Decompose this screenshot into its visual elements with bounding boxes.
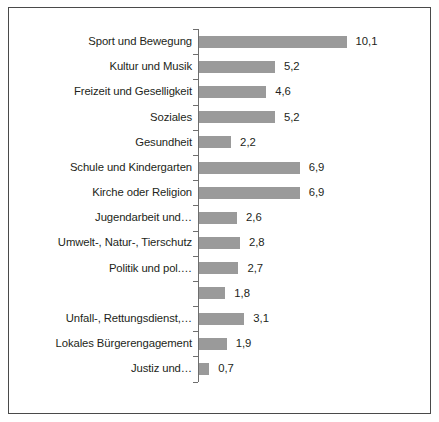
bar-row: Freizeit und Geselligkeit4,6: [9, 79, 430, 104]
bar-value-label: 6,9: [309, 162, 325, 173]
bar-value-label: 2,2: [240, 137, 256, 148]
bar-value-label: 2,8: [249, 237, 265, 248]
bar: [199, 187, 300, 199]
bar-and-value: 2,6: [199, 212, 262, 224]
bar-value-label: 0,7: [218, 363, 234, 374]
bar: [199, 136, 231, 148]
bar-value-label: 3,1: [253, 313, 269, 324]
bar-value-label: 2,7: [247, 263, 263, 274]
bar-and-value: 2,2: [199, 136, 256, 148]
bar-value-label: 4,6: [275, 86, 291, 97]
bar-row: Gesundheit2,2: [9, 130, 430, 155]
category-label: Kultur und Musik: [12, 61, 192, 72]
axis-tick: [193, 130, 198, 131]
bar: [199, 61, 275, 73]
axis-tick: [193, 54, 198, 55]
category-label: Schule und Kindergarten: [12, 162, 192, 173]
bar-value-label: 1,8: [234, 288, 250, 299]
axis-tick: [193, 256, 198, 257]
bar: [199, 287, 225, 299]
bar: [199, 313, 244, 325]
chart-frame-border: Sport und Bewegung10,1Kultur und Musik5,…: [8, 7, 431, 414]
category-label: Justiz und…: [12, 363, 192, 374]
bar-value-label: 10,1: [356, 36, 378, 47]
bar: [199, 212, 237, 224]
axis-tick: [193, 331, 198, 332]
bar: [199, 237, 240, 249]
bar-row: Sport und Bewegung10,1: [9, 29, 430, 54]
bar-row: Soziales5,2: [9, 105, 430, 130]
category-label: Politik und pol.…: [12, 263, 192, 274]
bar-row: Jugendarbeit und…2,6: [9, 205, 430, 230]
bar-and-value: 2,8: [199, 237, 265, 249]
axis-tick: [193, 155, 198, 156]
bar: [199, 338, 227, 350]
axis-tick: [193, 356, 198, 357]
category-label: Soziales: [12, 112, 192, 123]
category-label: Kirche oder Religion: [12, 187, 192, 198]
bar-value-label: 1,9: [236, 338, 252, 349]
bar-and-value: 5,2: [199, 111, 300, 123]
bar: [199, 36, 347, 48]
bar-and-value: 1,8: [199, 287, 250, 299]
axis-tick: [193, 180, 198, 181]
bar-rows: Sport und Bewegung10,1Kultur und Musik5,…: [9, 29, 430, 382]
axis-tick: [193, 306, 198, 307]
axis-tick: [193, 281, 198, 282]
axis-tick: [193, 231, 198, 232]
bar-and-value: 4,6: [199, 86, 291, 98]
bar-row: Schule und Kindergarten6,9: [9, 155, 430, 180]
bar-row: 1,8: [9, 281, 430, 306]
category-label: Freizeit und Geselligkeit: [12, 86, 192, 97]
category-label: Gesundheit: [12, 137, 192, 148]
bar-row: Justiz und…0,7: [9, 356, 430, 381]
bar-and-value: 0,7: [199, 363, 234, 375]
chart-figure: Sport und Bewegung10,1Kultur und Musik5,…: [0, 0, 439, 422]
category-label: Sport und Bewegung: [12, 36, 192, 47]
category-label: Lokales Bürgerengagement: [12, 338, 192, 349]
bar-value-label: 5,2: [284, 61, 300, 72]
category-label: Unfall-, Rettungsdienst,…: [12, 313, 192, 324]
bar-value-label: 2,6: [246, 212, 262, 223]
bar-row: Unfall-, Rettungsdienst,…3,1: [9, 306, 430, 331]
bar: [199, 111, 275, 123]
category-label: Umwelt-, Natur-, Tierschutz: [12, 237, 192, 248]
axis-tick: [193, 105, 198, 106]
bar-row: Lokales Bürgerengagement1,9: [9, 331, 430, 356]
bar-and-value: 6,9: [199, 162, 324, 174]
bar-and-value: 5,2: [199, 61, 300, 73]
category-label: Jugendarbeit und…: [12, 212, 192, 223]
bar-row: Kultur und Musik5,2: [9, 54, 430, 79]
bar-and-value: 1,9: [199, 338, 251, 350]
bar-and-value: 10,1: [199, 36, 378, 48]
bar-value-label: 6,9: [309, 187, 325, 198]
bar-and-value: 3,1: [199, 313, 269, 325]
bar-and-value: 2,7: [199, 262, 263, 274]
axis-tick: [193, 79, 198, 80]
bar-row: Kirche oder Religion6,9: [9, 180, 430, 205]
plot-area: Sport und Bewegung10,1Kultur und Musik5,…: [9, 8, 430, 413]
bar-value-label: 5,2: [284, 112, 300, 123]
axis-tick: [193, 29, 198, 30]
bar-row: Umwelt-, Natur-, Tierschutz2,8: [9, 231, 430, 256]
bar: [199, 162, 300, 174]
bar: [199, 262, 238, 274]
bar-and-value: 6,9: [199, 187, 324, 199]
bar: [199, 363, 209, 375]
bar-row: Politik und pol.…2,7: [9, 256, 430, 281]
axis-tick: [193, 382, 198, 383]
bar: [199, 86, 266, 98]
axis-tick: [193, 205, 198, 206]
